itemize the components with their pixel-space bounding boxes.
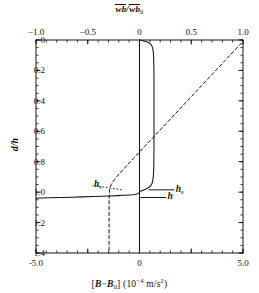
series-buoyancy-profile bbox=[36, 40, 154, 198]
leader-line-h-s bbox=[92, 185, 121, 190]
chart-figure: wb/wb0 [B−B0] (10−4 m/s2) d/h −1.0−0.500… bbox=[0, 0, 259, 293]
plot-canvas bbox=[0, 0, 259, 293]
series-heat-flux-profile bbox=[109, 43, 241, 253]
